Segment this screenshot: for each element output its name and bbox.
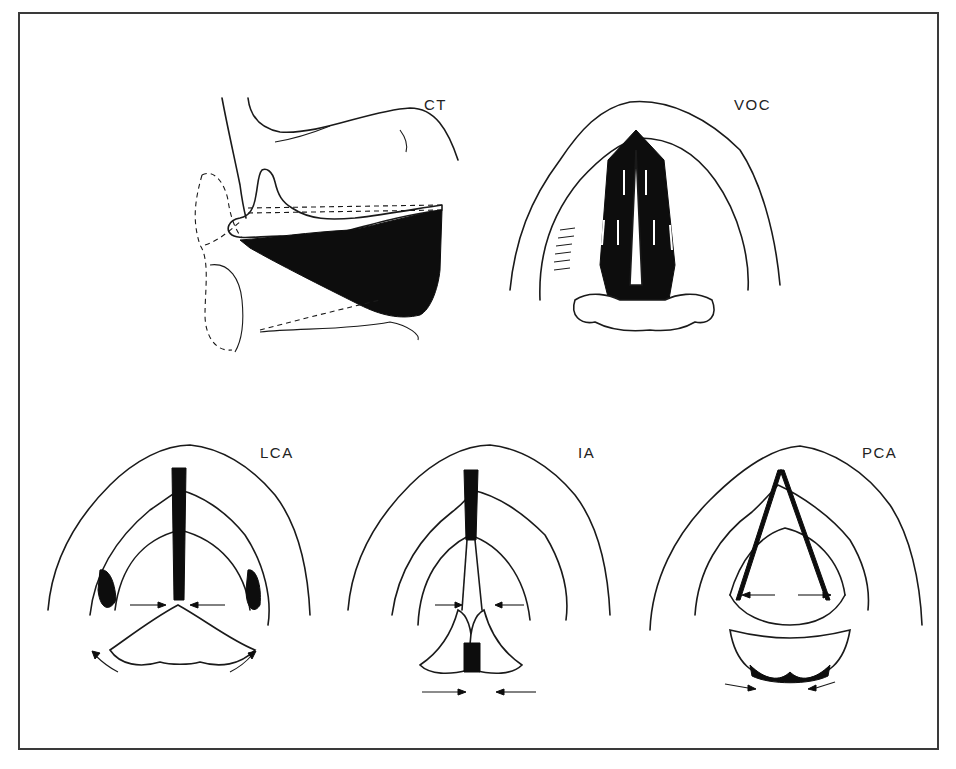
ia-drawing-icon [340, 440, 620, 700]
voc-drawing-icon [500, 90, 790, 350]
panel-label-voc: VOC [734, 96, 771, 113]
panel-label-ct: CT [424, 96, 447, 113]
panel-label-pca: PCA [862, 444, 897, 461]
pca-drawing-icon [640, 440, 930, 700]
panel-voc: VOC [500, 90, 790, 350]
panel-label-ia: IA [578, 444, 595, 461]
lca-drawing-icon [40, 440, 320, 690]
panel-label-lca: LCA [260, 444, 294, 461]
panel-pca: PCA [640, 440, 930, 700]
panel-lca: LCA [40, 440, 320, 690]
panel-ia: IA [340, 440, 620, 700]
ct-drawing-icon [180, 90, 470, 360]
panel-ct: CT [180, 90, 470, 360]
